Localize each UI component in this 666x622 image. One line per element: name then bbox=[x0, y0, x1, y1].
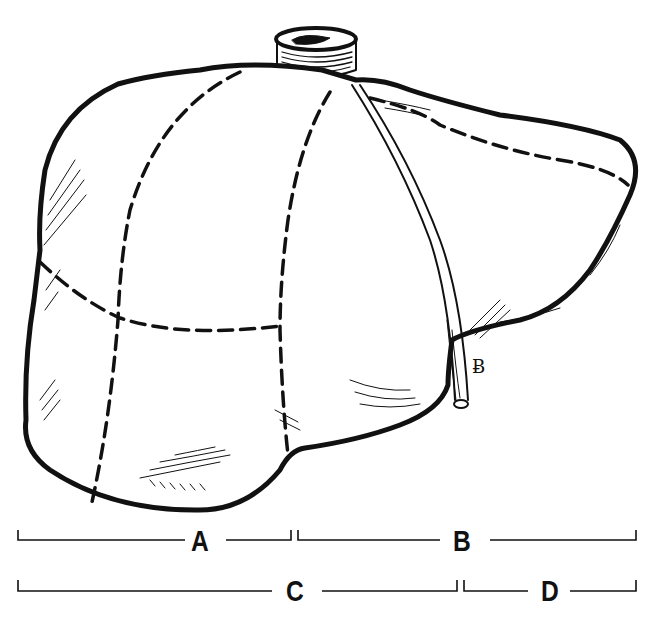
bracket-label-c: C bbox=[281, 576, 309, 606]
liver-diagram: A B C D Ƀ bbox=[0, 0, 666, 622]
liver-illustration bbox=[0, 0, 666, 622]
bracket-label-b: B bbox=[448, 526, 476, 556]
liver-outline bbox=[26, 65, 636, 510]
artist-signature: Ƀ bbox=[472, 356, 485, 377]
bracket-label-d: D bbox=[536, 576, 564, 606]
bracket-label-a: A bbox=[186, 526, 214, 556]
